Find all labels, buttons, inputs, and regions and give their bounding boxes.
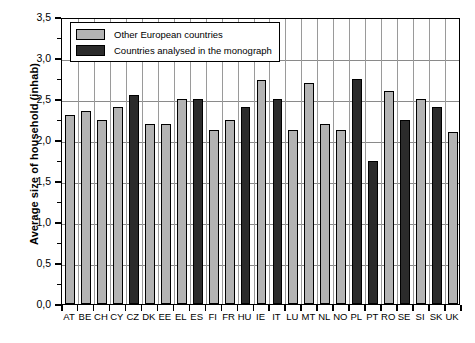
x-tick-label-ch: CH <box>94 311 108 322</box>
bar-pt <box>368 161 378 305</box>
y-tick-major-300 <box>55 58 61 60</box>
legend-swatch-monograph-icon <box>76 45 105 56</box>
x-tick-label-sk: SK <box>430 311 443 322</box>
bar-nl <box>320 124 330 304</box>
bar-cz <box>129 95 139 304</box>
bar-ee <box>161 124 171 304</box>
y-tick-major-100 <box>55 222 61 224</box>
y-tick-minor-025 <box>57 284 61 286</box>
legend-item-monograph: Countries analysed in the monograph <box>76 43 272 57</box>
bar-cy <box>113 107 123 304</box>
bar-lu <box>288 130 298 304</box>
y-tick-major-150 <box>55 181 61 183</box>
bar-sk <box>432 107 442 304</box>
bar-ro <box>384 91 394 304</box>
y-tick-label-10: 1,0 <box>11 216 51 228</box>
x-tick-label-se: SE <box>398 311 411 322</box>
x-tick-label-ro: RO <box>381 311 395 322</box>
x-tick-label-fi: FI <box>208 311 216 322</box>
x-tick-label-mt: MT <box>302 311 316 322</box>
y-tick-label-20: 2,0 <box>11 134 51 146</box>
x-tick-label-ee: EE <box>158 311 171 322</box>
legend-label-monograph: Countries analysed in the monograph <box>114 45 272 56</box>
bar-es <box>193 99 203 304</box>
x-tick-label-at: AT <box>63 311 74 322</box>
x-tick-13 <box>268 305 270 311</box>
y-tick-minor-175 <box>57 161 61 163</box>
y-tick-minor-225 <box>57 120 61 122</box>
y-tick-major-050 <box>55 263 61 265</box>
bar-uk <box>448 132 458 304</box>
y-axis-title: Average size of household (inhab) <box>28 34 40 274</box>
x-tick-label-el: EL <box>175 311 187 322</box>
legend-item-other: Other European countries <box>76 27 272 41</box>
x-tick-12 <box>253 305 255 311</box>
bar-dk <box>145 124 155 304</box>
x-tick-label-nl: NL <box>318 311 330 322</box>
x-tick-label-es: ES <box>190 311 203 322</box>
bar-it <box>273 99 283 304</box>
x-tick-label-uk: UK <box>445 311 458 322</box>
bar-at <box>65 115 75 304</box>
bar-no <box>336 130 346 304</box>
bar-be <box>81 111 91 304</box>
y-tick-major-200 <box>55 140 61 142</box>
x-tick-label-si: SI <box>416 311 425 322</box>
x-tick-label-fr: FR <box>222 311 235 322</box>
x-tick-label-no: NO <box>333 311 347 322</box>
x-tick-label-be: BE <box>79 311 92 322</box>
x-tick-label-hu: HU <box>238 311 252 322</box>
x-tick-9 <box>205 305 207 311</box>
legend-label-other: Other European countries <box>114 29 223 40</box>
x-tick-25 <box>460 305 462 311</box>
y-tick-label-15: 1,5 <box>11 175 51 187</box>
y-tick-label-00: 0,0 <box>11 298 51 310</box>
x-tick-label-cy: CY <box>110 311 123 322</box>
x-tick-label-pl: PL <box>350 311 362 322</box>
bar-pl <box>352 79 362 305</box>
y-tick-major-350 <box>55 17 61 19</box>
bar-ch <box>97 120 107 305</box>
bar-hu <box>241 107 251 304</box>
x-tick-label-ie: IE <box>256 311 265 322</box>
bar-se <box>400 120 410 305</box>
x-tick-label-lu: LU <box>286 311 298 322</box>
x-tick-label-pt: PT <box>366 311 378 322</box>
x-tick-label-cz: CZ <box>126 311 139 322</box>
y-tick-major-250 <box>55 99 61 101</box>
y-tick-label-35: 3,5 <box>11 11 51 23</box>
y-tick-label-05: 0,5 <box>11 257 51 269</box>
y-tick-minor-075 <box>57 243 61 245</box>
bar-fi <box>209 130 219 304</box>
y-tick-minor-325 <box>57 38 61 40</box>
y-tick-label-30: 3,0 <box>11 52 51 64</box>
legend-swatch-other-icon <box>76 29 105 40</box>
x-tick-label-it: IT <box>272 311 280 322</box>
bar-ie <box>257 80 267 304</box>
household-size-bar-chart: Average size of household (inhab) 0,00,5… <box>0 0 475 343</box>
bar-mt <box>304 83 314 304</box>
bar-el <box>177 99 187 304</box>
y-tick-label-25: 2,5 <box>11 93 51 105</box>
y-tick-minor-125 <box>57 202 61 204</box>
chart-legend: Other European countries Countries analy… <box>70 22 280 62</box>
bar-si <box>416 99 426 304</box>
x-tick-22 <box>412 305 414 311</box>
x-tick-label-dk: DK <box>142 311 155 322</box>
y-tick-minor-275 <box>57 79 61 81</box>
bar-fr <box>225 120 235 305</box>
